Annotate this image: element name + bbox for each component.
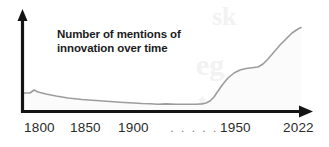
- x-tick-label-1900: 1900: [118, 120, 149, 135]
- chart-title: Number of mentions of innovation over ti…: [57, 28, 197, 55]
- chart-title-line-1: Number of mentions of: [57, 28, 197, 42]
- x-tick-label-1800: 1800: [24, 120, 55, 135]
- chart-screenshot: sk eg t Number of mentions of innovation…: [0, 0, 329, 147]
- x-tick-label-1950: 1950: [220, 120, 251, 135]
- x-axis-arrowhead: [299, 106, 313, 118]
- x-tick-label-2022: 2022: [283, 120, 314, 135]
- chart-title-line-2: innovation over time: [57, 42, 197, 56]
- x-tick-ellipsis: . . . . .: [170, 120, 218, 135]
- x-tick-label-1850: 1850: [70, 120, 101, 135]
- y-axis-arrowhead: [18, 9, 28, 21]
